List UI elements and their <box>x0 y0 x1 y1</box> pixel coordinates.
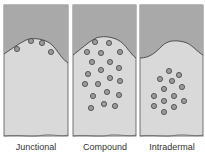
panel-compound <box>73 5 136 136</box>
label-compound: Compound <box>72 142 138 152</box>
label-intradermal: Intradermal <box>139 142 205 152</box>
label-junctional: Junctional <box>3 142 69 152</box>
nevus-diagram <box>0 0 205 158</box>
panel-intradermal <box>140 5 203 136</box>
panel-junctional <box>4 5 68 136</box>
